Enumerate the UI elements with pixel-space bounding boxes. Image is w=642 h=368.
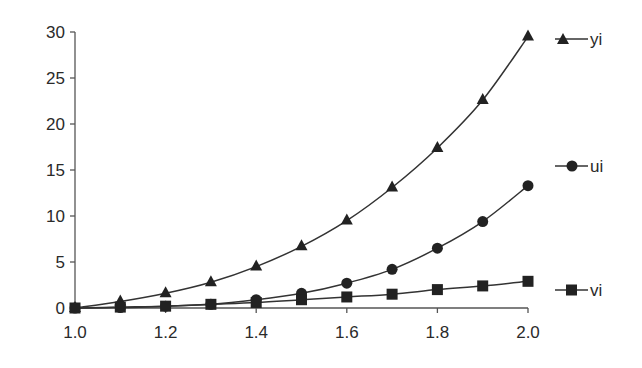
- x-tick-label: 2.0: [516, 323, 540, 342]
- square-marker-icon: [160, 301, 171, 312]
- square-marker-icon: [296, 294, 307, 305]
- series-yi: [69, 30, 534, 312]
- circle-marker-icon: [387, 264, 398, 275]
- square-marker-icon: [387, 289, 398, 300]
- square-marker-icon: [566, 285, 577, 296]
- y-tick-label: 30: [46, 23, 65, 42]
- series-line: [75, 37, 528, 308]
- square-marker-icon: [115, 302, 126, 313]
- series-group: [69, 30, 534, 314]
- y-tick-label: 0: [56, 299, 65, 318]
- square-marker-icon: [523, 276, 534, 287]
- circle-marker-icon: [567, 161, 578, 172]
- legend-label-yi: yi: [590, 30, 602, 49]
- triangle-marker-icon: [431, 141, 443, 152]
- circle-marker-icon: [477, 216, 488, 227]
- legend: yi ui vi: [555, 30, 603, 300]
- y-tick-label: 10: [46, 207, 65, 226]
- circle-marker-icon: [341, 278, 352, 289]
- legend-label-ui: ui: [590, 157, 603, 176]
- square-marker-icon: [477, 280, 488, 291]
- square-marker-icon: [251, 297, 262, 308]
- circle-marker-icon: [432, 243, 443, 254]
- triangle-marker-icon: [522, 30, 534, 41]
- circle-marker-icon: [523, 180, 534, 191]
- triangle-marker-icon: [386, 180, 398, 191]
- y-tick-label: 15: [46, 161, 65, 180]
- legend-item-vi: vi: [555, 281, 602, 300]
- legend-label-vi: vi: [590, 281, 602, 300]
- square-marker-icon: [432, 284, 443, 295]
- line-chart: 0510152025301.01.21.41.61.82.0 yi ui vi: [0, 0, 642, 368]
- y-tick-label: 5: [56, 253, 65, 272]
- x-tick-label: 1.6: [335, 323, 359, 342]
- square-marker-icon: [341, 291, 352, 302]
- x-tick-label: 1.2: [154, 323, 178, 342]
- triangle-marker-icon: [341, 214, 353, 225]
- legend-item-ui: ui: [555, 157, 603, 176]
- x-tick-label: 1.8: [426, 323, 450, 342]
- x-tick-label: 1.0: [63, 323, 87, 342]
- y-tick-label: 20: [46, 115, 65, 134]
- y-tick-label: 25: [46, 69, 65, 88]
- square-marker-icon: [70, 303, 81, 314]
- legend-item-yi: yi: [555, 30, 602, 49]
- square-marker-icon: [205, 299, 216, 310]
- x-tick-label: 1.4: [244, 323, 268, 342]
